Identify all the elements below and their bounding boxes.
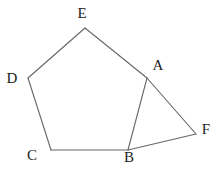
label-b: B: [124, 149, 134, 165]
vertex-labels: E D A F C B: [7, 5, 211, 165]
segment-fb: [128, 134, 196, 150]
geometry-diagram: E D A F C B: [0, 0, 216, 171]
label-e: E: [77, 5, 86, 21]
segment-ba: [128, 78, 147, 150]
label-d: D: [7, 70, 18, 86]
segment-ae: [85, 28, 147, 78]
label-c: C: [27, 147, 37, 163]
label-a: A: [153, 57, 164, 73]
pentagon-abcde: [28, 28, 147, 150]
label-f: F: [202, 121, 210, 137]
segment-dc: [28, 78, 51, 150]
triangle-abf: [128, 78, 196, 150]
segment-ed: [28, 28, 85, 78]
segment-af: [147, 78, 196, 134]
